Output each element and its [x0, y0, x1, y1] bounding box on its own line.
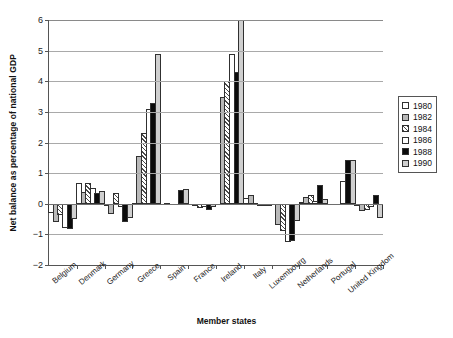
y-tick-mark [45, 173, 49, 174]
y-tick-label: 2 [38, 138, 43, 148]
x-axis-label-cell: Denmark [76, 267, 104, 319]
legend-label: 1984 [413, 125, 432, 134]
faint-top-artifact [8, 1, 168, 9]
gridline-6 [49, 20, 383, 21]
legend-item-1986[interactable]: 1986 [402, 135, 432, 147]
y-axis-title: Net balance as percentage of national GD… [6, 20, 20, 265]
legend-swatch-icon [402, 148, 409, 155]
legend-label: 1982 [413, 113, 432, 122]
legend-swatch-icon [402, 137, 409, 144]
legend-label: 1980 [413, 102, 432, 111]
legend-item-1982[interactable]: 1982 [402, 112, 432, 124]
x-axis-label-cell: Luxembourg [271, 267, 299, 319]
x-axis-category-labels: BelgiumDenmarkGermanyGreeceSpainFranceIr… [48, 267, 383, 319]
y-tick-mark [45, 81, 49, 82]
bar [113, 193, 119, 204]
y-tick-label: 5 [38, 46, 43, 56]
y-tick-label: −2 [33, 260, 43, 270]
x-axis-label-cell: Italy [243, 267, 271, 319]
legend-swatch-icon [402, 102, 409, 109]
gridline-2 [49, 143, 383, 144]
gridline-neg1 [49, 234, 383, 235]
bar [377, 204, 383, 218]
legend-item-1988[interactable]: 1988 [402, 146, 432, 158]
legend-item-1980[interactable]: 1980 [402, 100, 432, 112]
legend-swatch-icon [402, 125, 409, 132]
gridline-5 [49, 51, 383, 52]
gridline-0 [49, 204, 383, 205]
legend-label: 1990 [413, 159, 432, 168]
y-tick-label: 4 [38, 76, 43, 86]
x-axis-label-cell: Belgium [48, 267, 76, 319]
legend-swatch-icon [402, 114, 409, 121]
y-tick-mark [45, 234, 49, 235]
gridline-4 [49, 81, 383, 82]
legend-item-1990[interactable]: 1990 [402, 158, 432, 170]
y-tick-mark [45, 112, 49, 113]
x-axis-label-cell: Netherlands [299, 267, 327, 319]
x-axis-label-cell: Greece [132, 267, 160, 319]
legend-label: 1986 [413, 136, 432, 145]
bar [373, 195, 379, 204]
bar-chart: Net balance as percentage of national GD… [0, 0, 453, 338]
x-axis-label-cell: France [188, 267, 216, 319]
plot-area: 6543210−1−2 [48, 20, 383, 265]
x-axis-label-cell: Ireland [216, 267, 244, 319]
y-tick-label: 1 [38, 168, 43, 178]
gridline-1 [49, 173, 383, 174]
gridline-3 [49, 112, 383, 113]
x-axis-label: Italy [252, 264, 269, 280]
y-tick-label: 6 [38, 15, 43, 25]
y-tick-mark [45, 20, 49, 21]
y-tick-label: 0 [38, 199, 43, 209]
y-axis-title-text: Net balance as percentage of national GD… [8, 54, 18, 231]
y-tick-label: −1 [33, 229, 43, 239]
legend[interactable]: 198019821984198619881990 [398, 96, 437, 173]
legend-label: 1988 [413, 148, 432, 157]
y-tick-label: 3 [38, 107, 43, 117]
y-tick-mark [45, 143, 49, 144]
x-axis-label-cell: Spain [160, 267, 188, 319]
x-axis-label-cell: Germany [104, 267, 132, 319]
y-tick-mark [45, 204, 49, 205]
x-axis-label-cell: United Kingdom [355, 267, 383, 319]
y-tick-mark [45, 51, 49, 52]
x-axis-title: Member states [0, 316, 453, 326]
bar [108, 204, 114, 215]
legend-swatch-icon [402, 160, 409, 167]
legend-item-1984[interactable]: 1984 [402, 123, 432, 135]
